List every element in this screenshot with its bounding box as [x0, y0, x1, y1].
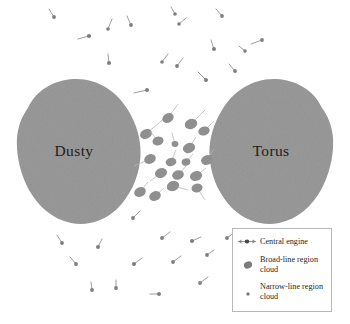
narrow-line-cloud	[243, 49, 247, 53]
cloud-tail	[134, 90, 147, 93]
legend-item-central-engine: Central engine	[237, 236, 333, 247]
narrow-line-cloud	[175, 64, 179, 68]
narrow-line-cloud	[177, 22, 181, 26]
central-engine-symbol	[237, 236, 259, 247]
narrow-line-cloud	[173, 12, 177, 16]
narrow-line-cloud	[220, 14, 224, 18]
broad-line-cloud	[151, 135, 164, 146]
broad-line-cloud-symbol	[237, 255, 259, 273]
broad-line-cloud	[161, 111, 176, 125]
broad-line-cloud	[190, 182, 203, 194]
broad-line-cloud	[183, 117, 198, 131]
broad-line-cloud	[188, 169, 203, 182]
narrow-line-cloud	[132, 262, 136, 266]
narrow-line-cloud	[205, 253, 209, 257]
narrow-line-cloud	[114, 286, 118, 290]
narrow-line-cloud	[160, 60, 164, 64]
narrow-line-cloud	[74, 262, 78, 266]
narrow-line-cloud	[145, 88, 149, 92]
narrow-line-cloud	[212, 47, 216, 51]
narrow-line-cloud	[106, 27, 110, 31]
narrow-line-cloud	[90, 288, 94, 292]
narrow-line-cloud	[107, 61, 111, 65]
agn-diagram-figure: Dusty Torus Central engine	[0, 0, 350, 324]
broad-line-cloud	[153, 166, 168, 180]
broad-line-cloud	[143, 152, 158, 166]
narrow-line-cloud	[157, 292, 161, 296]
legend-label-central-engine: Central engine	[259, 237, 308, 247]
legend-item-broad-line-cloud: Broad-line region cloud	[237, 255, 333, 274]
narrow-line-cloud-symbol	[237, 282, 259, 302]
narrow-line-cloud	[160, 236, 164, 240]
narrow-line-cloud	[190, 239, 194, 243]
broad-line-region-clouds	[133, 104, 215, 203]
broad-line-cloud	[171, 169, 185, 182]
narrow-line-cloud	[129, 23, 133, 27]
torus-left-label: Dusty	[54, 142, 93, 159]
narrow-line-cloud	[171, 260, 175, 264]
legend-item-narrow-line-cloud: Narrow-line region cloud	[237, 282, 333, 302]
narrow-line-cloud	[225, 236, 229, 240]
legend-label-narrow-line-cloud: Narrow-line region cloud	[259, 282, 323, 301]
narrow-line-cloud	[87, 34, 91, 38]
narrow-line-cloud	[52, 15, 56, 19]
narrow-line-cloud	[204, 78, 208, 82]
narrow-line-cloud	[96, 245, 100, 249]
narrow-line-cloud	[60, 241, 64, 245]
torus-right-label: Torus	[252, 142, 289, 159]
narrow-line-cloud	[233, 69, 237, 73]
broad-line-cloud	[165, 179, 180, 193]
narrow-line-cloud	[131, 216, 135, 220]
legend-label-broad-line-cloud: Broad-line region cloud	[259, 255, 318, 274]
broad-line-cloud	[181, 158, 191, 167]
broad-line-cloud	[172, 141, 179, 147]
legend: Central engine Broad-line region cloud N…	[232, 228, 332, 312]
broad-line-cloud	[181, 141, 196, 155]
narrow-line-cloud	[260, 38, 264, 42]
narrow-line-cloud	[198, 281, 202, 285]
broad-line-cloud	[165, 157, 177, 167]
broad-line-cloud	[197, 125, 211, 137]
broad-line-cloud	[133, 185, 148, 199]
